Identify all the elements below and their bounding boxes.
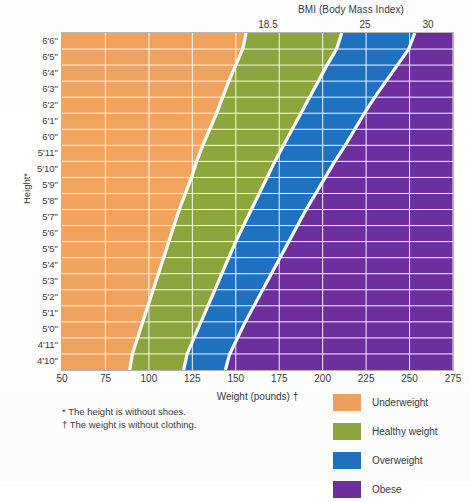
x-tick-label: 50 bbox=[56, 373, 67, 384]
x-tick-label: 175 bbox=[271, 373, 288, 384]
legend-label: Overweight bbox=[372, 455, 423, 466]
y-tick-label: 5'7" bbox=[0, 211, 58, 222]
bmi-band-plot bbox=[62, 33, 453, 370]
x-axis-labels: 5075100125150175200225250275 bbox=[0, 373, 470, 387]
bmi-axis-title: BMI (Body Mass Index) bbox=[232, 4, 470, 15]
y-tick-label: 4'11" bbox=[0, 339, 58, 350]
y-tick-label: 6'5" bbox=[0, 51, 58, 62]
y-tick-label: 6'2" bbox=[0, 99, 58, 110]
y-tick-label: 5'0" bbox=[0, 323, 58, 334]
x-tick-label: 275 bbox=[445, 373, 462, 384]
y-tick-label: 4'10" bbox=[0, 355, 58, 366]
footnote-weight: † The weight is without clothing. bbox=[62, 419, 292, 432]
plot-area bbox=[62, 33, 453, 370]
y-tick-label: 6'0" bbox=[0, 131, 58, 142]
x-tick-label: 125 bbox=[184, 373, 201, 384]
y-axis-labels: 6'6"6'5"6'4"6'3"6'2"6'1"6'0"5'11"5'10"5'… bbox=[0, 33, 58, 370]
y-tick-label: 5'11" bbox=[0, 147, 58, 158]
y-tick-label: 5'10" bbox=[0, 163, 58, 174]
legend: UnderweightHealthy weightOverweightObese bbox=[333, 390, 470, 502]
y-tick-label: 6'6" bbox=[0, 35, 58, 46]
legend-item-obese: Obese bbox=[333, 477, 470, 501]
y-tick-label: 5'3" bbox=[0, 275, 58, 286]
x-tick-label: 150 bbox=[227, 373, 244, 384]
bmi-tick-30: 30 bbox=[422, 19, 433, 30]
legend-item-overweight: Overweight bbox=[333, 448, 470, 472]
legend-item-underweight: Underweight bbox=[333, 390, 470, 414]
x-tick-label: 100 bbox=[141, 373, 158, 384]
y-tick-label: 6'1" bbox=[0, 115, 58, 126]
y-tick-label: 6'4" bbox=[0, 67, 58, 78]
legend-label: Obese bbox=[372, 484, 401, 495]
y-tick-label: 5'9" bbox=[0, 179, 58, 190]
legend-swatch-icon bbox=[333, 423, 361, 440]
x-tick-label: 225 bbox=[358, 373, 375, 384]
legend-swatch-icon bbox=[333, 394, 361, 411]
legend-item-healthy-weight: Healthy weight bbox=[333, 419, 470, 443]
legend-label: Underweight bbox=[372, 397, 428, 408]
x-tick-label: 200 bbox=[314, 373, 331, 384]
legend-swatch-icon bbox=[333, 481, 361, 498]
bmi-tick-25: 25 bbox=[359, 19, 370, 30]
legend-swatch-icon bbox=[333, 452, 361, 469]
y-tick-label: 6'3" bbox=[0, 83, 58, 94]
x-axis-title: Weight (pounds) † bbox=[160, 391, 355, 402]
x-tick-label: 250 bbox=[401, 373, 418, 384]
x-tick-label: 75 bbox=[100, 373, 111, 384]
y-tick-label: 5'1" bbox=[0, 307, 58, 318]
legend-label: Healthy weight bbox=[372, 426, 438, 437]
y-tick-label: 5'2" bbox=[0, 291, 58, 302]
y-tick-label: 5'5" bbox=[0, 243, 58, 254]
bmi-tick-18-5: 18.5 bbox=[258, 19, 277, 30]
y-tick-label: 5'6" bbox=[0, 227, 58, 238]
y-tick-label: 5'8" bbox=[0, 195, 58, 206]
y-tick-label: 5'4" bbox=[0, 259, 58, 270]
footnotes: * The height is without shoes. † The wei… bbox=[62, 406, 292, 431]
footnote-height: * The height is without shoes. bbox=[62, 406, 292, 419]
